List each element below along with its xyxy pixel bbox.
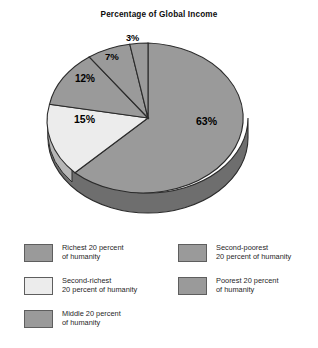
legend-item-richest[interactable]: Richest 20 percent of humanity [24, 243, 169, 269]
legend-item-poorest[interactable]: Poorest 20 percent of humanity [178, 276, 318, 302]
slice-label-15: 15% [74, 113, 96, 125]
legend-item-second-richest[interactable]: Second-richest 20 percent of humanity [24, 276, 169, 302]
pie-svg: 63% 15% 12% 7% 3% [36, 24, 276, 229]
legend-column-right: Second-poorest 20 percent of humanity Po… [178, 243, 318, 309]
legend-item-middle[interactable]: Middle 20 percent of humanity [24, 309, 169, 335]
legend-swatch-second-poorest [178, 244, 207, 262]
legend-label-richest: Richest 20 percent of humanity [62, 243, 124, 262]
chart-title: Percentage of Global Income [0, 10, 318, 19]
legend-swatch-second-richest [24, 277, 53, 295]
pie-chart-figure: Percentage of Global Income 63% 15% [0, 0, 318, 348]
pie-chart-plot: 63% 15% 12% 7% 3% [36, 24, 276, 229]
legend-label-second-poorest: Second-poorest 20 percent of humanity [216, 243, 291, 262]
slice-label-7: 7% [105, 51, 119, 62]
slice-label-63: 63% [196, 115, 218, 127]
slice-label-3: 3% [126, 33, 139, 43]
legend-label-poorest: Poorest 20 percent of humanity [216, 276, 278, 295]
legend: Richest 20 percent of humanity Second-ri… [0, 243, 318, 348]
legend-label-second-richest: Second-richest 20 percent of humanity [62, 276, 137, 295]
legend-column-left: Richest 20 percent of humanity Second-ri… [24, 243, 169, 342]
legend-swatch-poorest [178, 277, 207, 295]
legend-swatch-middle [24, 310, 53, 328]
legend-label-middle: Middle 20 percent of humanity [62, 309, 121, 328]
slice-label-12: 12% [75, 73, 95, 84]
legend-swatch-richest [24, 244, 53, 262]
legend-item-second-poorest[interactable]: Second-poorest 20 percent of humanity [178, 243, 318, 269]
